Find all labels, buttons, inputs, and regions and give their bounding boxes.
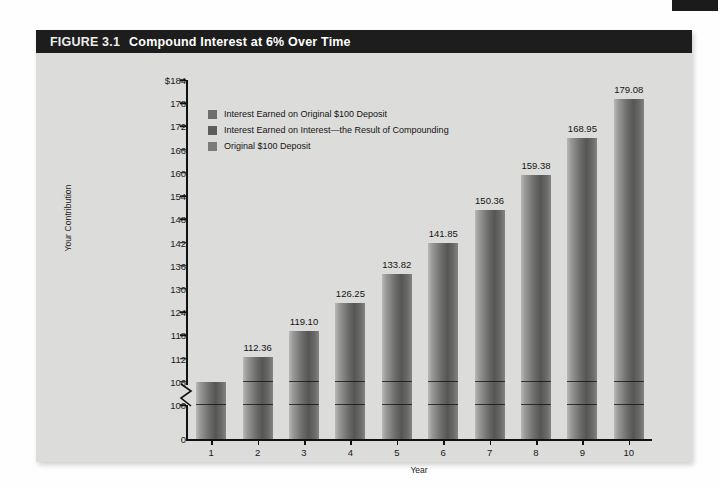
y-axis-tick-mark <box>180 404 186 406</box>
y-axis-tick-label: 0 <box>138 434 186 445</box>
y-axis-tick-label: 130 <box>138 283 186 294</box>
bar-segment-divider-principal <box>243 404 273 405</box>
legend-swatch-icon <box>208 110 217 119</box>
legend-item-label: Interest Earned on Original $100 Deposit <box>224 109 387 119</box>
figure-title: Compound Interest at 6% Over Time <box>129 35 351 49</box>
y-axis-tick-mark <box>180 172 186 174</box>
y-axis-tick-label: 172 <box>138 121 186 132</box>
bar[interactable]: 119.10 <box>289 331 319 439</box>
bar-segment-divider-principal <box>382 404 412 405</box>
bar[interactable]: 159.38 <box>521 175 551 439</box>
x-axis-tick-mark <box>443 439 445 445</box>
figure-header: FIGURE 3.1 Compound Interest at 6% Over … <box>36 30 692 53</box>
page-root: FIGURE 3.1 Compound Interest at 6% Over … <box>0 0 720 488</box>
bar-value-label: 168.95 <box>568 123 597 134</box>
y-axis-tick-label: 136 <box>138 260 186 271</box>
legend-swatch-icon <box>208 126 217 135</box>
x-axis-tick-label: 3 <box>284 447 324 458</box>
x-axis-tick-mark <box>582 439 584 445</box>
bar-segment-divider-simple-interest <box>243 381 273 382</box>
bar-value-label: 179.08 <box>614 84 643 95</box>
bar-segment-divider-simple-interest <box>289 381 319 382</box>
bar[interactable]: 112.36 <box>243 357 273 439</box>
x-axis-tick-label: 8 <box>516 447 556 458</box>
bar[interactable]: 150.36 <box>475 210 505 439</box>
y-axis-tick-mark <box>180 79 186 81</box>
x-axis-tick-label: 1 <box>191 447 231 458</box>
x-axis-tick-label: 10 <box>609 447 649 458</box>
x-axis-tick-mark <box>397 439 399 445</box>
bar[interactable]: 133.82 <box>382 274 412 439</box>
y-axis-tick-mark <box>180 335 186 337</box>
y-axis-tick-label: 166 <box>138 144 186 155</box>
bar-value-label: 112.36 <box>243 342 271 353</box>
legend-item-label: Interest Earned on Interest—the Result o… <box>224 125 449 135</box>
y-axis-tick-mark <box>180 381 186 383</box>
x-axis-tick-mark <box>536 439 538 445</box>
bar-value-label: 150.36 <box>475 195 504 206</box>
corner-tab-marker <box>672 0 718 11</box>
y-axis-tick-label: 178 <box>138 98 186 109</box>
legend-item[interactable]: Interest Earned on Interest—the Result o… <box>208 124 449 136</box>
x-axis-tick-label: 2 <box>238 447 278 458</box>
bar-value-label: 159.38 <box>521 160 550 171</box>
bar[interactable]: 168.95 <box>567 138 597 439</box>
bar-segment-divider-simple-interest <box>428 381 458 382</box>
bar-segment-divider-principal <box>196 404 226 405</box>
y-axis-tick-label: 160 <box>138 167 186 178</box>
x-axis-tick-label: 9 <box>562 447 602 458</box>
x-axis-tick-mark <box>350 439 352 445</box>
x-axis-tick-label: 4 <box>330 447 370 458</box>
figure-number: FIGURE 3.1 <box>50 35 120 49</box>
bar[interactable] <box>196 382 226 439</box>
y-axis-tick-mark <box>180 358 186 360</box>
x-axis-tick-mark <box>490 439 492 445</box>
y-axis-tick-mark <box>180 265 186 267</box>
x-axis-tick-label: 7 <box>470 447 510 458</box>
x-axis-title: Year <box>186 465 652 475</box>
chart-legend: Interest Earned on Original $100 Deposit… <box>208 108 449 156</box>
y-axis-tick-mark <box>180 242 186 244</box>
y-axis-tick-mark <box>180 126 186 128</box>
bar[interactable]: 126.25 <box>335 303 365 439</box>
bar-segment-divider-simple-interest <box>614 381 644 382</box>
y-axis-tick-label: 154 <box>138 191 186 202</box>
legend-item-label: Original $100 Deposit <box>224 141 311 151</box>
bar-segment-divider-principal <box>567 404 597 405</box>
x-axis-tick-mark <box>304 439 306 445</box>
y-axis-tick-label: $184 <box>138 75 186 86</box>
y-axis-title: Your Contribution <box>63 158 73 278</box>
bar-segment-divider-principal <box>289 404 319 405</box>
bar-segment-divider-principal <box>475 404 505 405</box>
bar-value-label: 141.85 <box>429 228 458 239</box>
bar-segment-divider-simple-interest <box>382 381 412 382</box>
legend-swatch-icon <box>208 142 217 151</box>
x-axis-tick-label: 5 <box>377 447 417 458</box>
bar-segment-divider-simple-interest <box>521 381 551 382</box>
bar[interactable]: 141.85 <box>428 243 458 439</box>
bar-segment-divider-principal <box>521 404 551 405</box>
bar-segment-divider-principal <box>614 404 644 405</box>
y-axis-tick-label: 142 <box>138 237 186 248</box>
y-axis-tick-mark <box>180 288 186 290</box>
y-axis-tick-label: 112 <box>138 353 186 364</box>
y-axis-tick-mark <box>180 149 186 151</box>
y-axis-tick-mark <box>180 219 186 221</box>
figure-panel: FIGURE 3.1 Compound Interest at 6% Over … <box>36 30 692 462</box>
x-axis-tick-mark <box>211 439 213 445</box>
x-axis-tick-mark <box>629 439 631 445</box>
legend-item[interactable]: Original $100 Deposit <box>208 140 449 152</box>
y-axis-tick-mark <box>180 195 186 197</box>
y-axis-tick-mark <box>180 311 186 313</box>
x-axis-tick-label: 6 <box>423 447 463 458</box>
y-axis-tick-mark <box>180 102 186 104</box>
bar-segment-divider-simple-interest <box>567 381 597 382</box>
bar-segment-divider-simple-interest <box>335 381 365 382</box>
bar-segment-divider-principal <box>335 404 365 405</box>
y-axis-tick-label: 124 <box>138 307 186 318</box>
y-axis-tick-label: 118 <box>138 330 186 341</box>
chart-plot-area: Your Contribution $184178172166160154148… <box>36 53 692 462</box>
legend-item[interactable]: Interest Earned on Original $100 Deposit <box>208 108 449 120</box>
bar[interactable]: 179.08 <box>614 99 644 439</box>
bar-value-label: 119.10 <box>290 316 318 327</box>
